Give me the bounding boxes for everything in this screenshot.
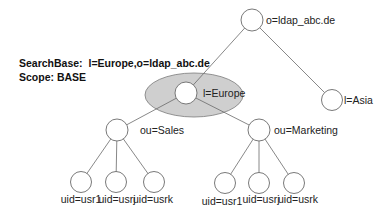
leaf-label: uid=usrj <box>242 193 279 205</box>
leaf-label: uid=usrk <box>278 193 319 205</box>
leaf-circle <box>284 173 305 194</box>
node-asia: l=Asia <box>322 90 374 111</box>
ldap-tree-diagram: o=ldap_abc.de l=Europe l=Asia ou=Sales o… <box>0 0 390 216</box>
leaf-label: uid=usr1 <box>61 193 102 205</box>
node-europe-label: l=Europe <box>203 87 245 99</box>
node-root-label: o=ldap_abc.de <box>266 14 335 26</box>
edge-root-asia <box>252 20 332 100</box>
leaf-sales-usr1: uid=usr1 <box>61 172 102 206</box>
leaf-circle <box>249 173 270 194</box>
leaf-sales-usrk: uid=usrk <box>133 172 174 206</box>
node-marketing-circle <box>248 119 270 141</box>
leaf-label: uid=usrj <box>98 193 135 205</box>
leaf-circle <box>144 172 165 193</box>
node-marketing: ou=Marketing <box>248 119 338 141</box>
node-sales-label: ou=Sales <box>140 124 184 136</box>
node-root-circle <box>241 9 263 31</box>
node-sales: ou=Sales <box>106 119 184 141</box>
leaf-circle <box>215 173 236 194</box>
node-marketing-label: ou=Marketing <box>274 124 338 136</box>
node-europe-circle <box>175 82 197 104</box>
leaf-marketing-usrj: uid=usrj <box>242 173 279 206</box>
node-asia-circle <box>322 90 343 111</box>
node-root: o=ldap_abc.de <box>241 9 335 31</box>
leaf-label: uid=usrk <box>133 193 174 205</box>
leaf-marketing-usr1: uid=usr1 <box>202 173 243 208</box>
leaf-label: uid=usr1 <box>202 195 243 207</box>
leaf-circle <box>71 172 92 193</box>
leaf-sales-usrj: uid=usrj <box>98 172 135 206</box>
node-asia-label: l=Asia <box>344 94 373 106</box>
node-sales-circle <box>106 119 128 141</box>
leaf-marketing-usrk: uid=usrk <box>278 173 319 206</box>
leaf-circle <box>106 172 127 193</box>
